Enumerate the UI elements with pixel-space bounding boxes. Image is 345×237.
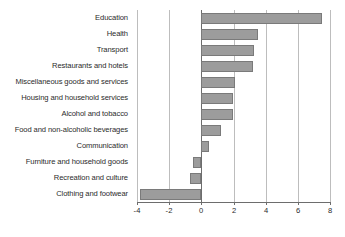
- bar: [201, 29, 257, 40]
- gridline-6: [298, 10, 299, 202]
- bar: [201, 109, 232, 120]
- category-label: Recreation and culture: [0, 170, 128, 186]
- x-tick-label-5: 6: [286, 206, 310, 215]
- category-label: Furniture and household goods: [0, 154, 128, 170]
- x-tick-mark-0: [137, 202, 138, 205]
- category-label: Communication: [0, 138, 128, 154]
- x-tick-mark-6: [330, 202, 331, 205]
- bar: [201, 13, 322, 24]
- bar-chart: EducationHealthTransportRestaurants and …: [0, 0, 345, 237]
- x-tick-mark-4: [266, 202, 267, 205]
- gridline-8: [330, 10, 331, 202]
- category-label: Restaurants and hotels: [0, 58, 128, 74]
- bar: [140, 189, 201, 200]
- x-tick-label-0: -4: [125, 206, 149, 215]
- bar: [201, 93, 232, 104]
- x-tick-label-1: -2: [157, 206, 181, 215]
- category-label: Alcohol and tobacco: [0, 106, 128, 122]
- x-tick-label-6: 8: [318, 206, 342, 215]
- x-tick-mark-2: [201, 202, 202, 205]
- x-tick-label-4: 4: [254, 206, 278, 215]
- x-tick-label-2: 0: [189, 206, 213, 215]
- bar: [201, 141, 209, 152]
- bar: [190, 173, 201, 184]
- gridline-4: [266, 10, 267, 202]
- x-tick-mark-3: [234, 202, 235, 205]
- category-label: Housing and household services: [0, 90, 128, 106]
- x-tick-label-3: 2: [222, 206, 246, 215]
- bar: [193, 157, 201, 168]
- x-tick-mark-1: [169, 202, 170, 205]
- category-label: Food and non-alcoholic beverages: [0, 122, 128, 138]
- category-axis-labels: EducationHealthTransportRestaurants and …: [0, 10, 128, 202]
- gridline--2: [169, 10, 170, 202]
- category-label: Education: [0, 10, 128, 26]
- bar: [201, 61, 252, 72]
- bar: [201, 45, 254, 56]
- category-label: Miscellaneous goods and services: [0, 74, 128, 90]
- category-label: Health: [0, 26, 128, 42]
- bar: [201, 77, 235, 88]
- gridline--4: [137, 10, 138, 202]
- plot-area: [137, 10, 330, 202]
- category-label: Clothing and footwear: [0, 186, 128, 202]
- category-label: Transport: [0, 42, 128, 58]
- bar: [201, 125, 220, 136]
- x-tick-mark-5: [298, 202, 299, 205]
